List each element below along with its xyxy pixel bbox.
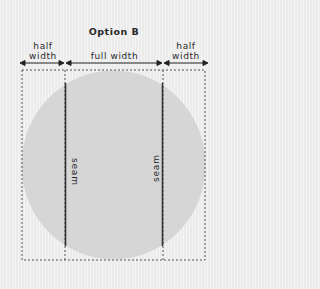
seam-label-right: seam	[151, 154, 161, 182]
label-line: half	[20, 41, 66, 51]
label-right-half-width: half width	[163, 41, 209, 61]
option-b-diagram: Option B half width full width half widt…	[0, 0, 260, 289]
diagram-title: Option B	[64, 26, 164, 37]
label-line: half	[163, 41, 209, 51]
dimension-arrows	[20, 61, 208, 66]
label-line: full width	[66, 51, 163, 61]
label-line: width	[20, 51, 66, 61]
seam-label-left: seam	[70, 158, 80, 186]
label-left-half-width: half width	[20, 41, 66, 61]
circle-shape	[22, 71, 206, 260]
label-full-width: full width	[66, 51, 163, 61]
label-line: width	[163, 51, 209, 61]
